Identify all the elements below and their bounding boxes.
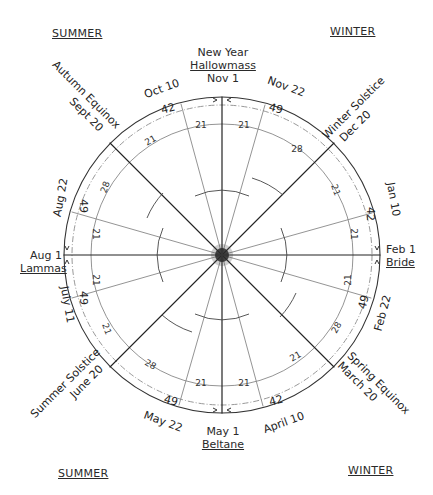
svg-text:49: 49	[77, 199, 90, 213]
festival-bottom-name: Beltane	[200, 438, 246, 451]
svg-text:21: 21	[91, 274, 101, 285]
svg-text:21: 21	[288, 349, 303, 363]
svg-text:42: 42	[364, 207, 377, 221]
svg-text:April 10: April 10	[262, 409, 307, 436]
svg-text:49: 49	[267, 101, 284, 117]
svg-text:21: 21	[329, 183, 342, 197]
svg-text:21: 21	[100, 322, 113, 336]
svg-text:28: 28	[99, 180, 112, 194]
svg-text:21: 21	[343, 274, 353, 285]
svg-text:28: 28	[329, 320, 344, 335]
festival-left-name: Lammas	[20, 262, 62, 275]
svg-text:28: 28	[143, 357, 158, 372]
svg-text:21: 21	[195, 378, 206, 388]
svg-text:July 11: July 11	[58, 284, 77, 324]
svg-text:Nov 22: Nov 22	[266, 74, 307, 100]
season-label-top-left: SUMMER	[52, 27, 102, 40]
svg-text:28: 28	[291, 144, 303, 154]
svg-text:49: 49	[77, 291, 90, 305]
festival-right: Feb 1 Bride	[386, 243, 416, 269]
festival-top-name: Hallowmass	[187, 59, 259, 72]
svg-text:May 22: May 22	[142, 409, 184, 435]
festival-left-date: Aug 1	[20, 249, 62, 262]
festival-right-name: Bride	[386, 256, 416, 269]
festival-top-line1: New Year	[187, 46, 259, 59]
festival-bottom: May 1 Beltane	[200, 425, 246, 451]
svg-text:21: 21	[143, 133, 158, 147]
svg-text:21: 21	[349, 228, 359, 239]
festival-left: Aug 1 Lammas	[20, 249, 62, 275]
svg-text:21: 21	[195, 120, 206, 130]
season-label-bottom-left: SUMMER	[58, 467, 108, 480]
svg-text:49: 49	[356, 294, 372, 311]
center-hub	[211, 244, 233, 266]
svg-text:Jan 10: Jan 10	[384, 180, 403, 217]
svg-text:Oct 10: Oct 10	[142, 76, 181, 101]
svg-text:21: 21	[91, 228, 101, 239]
festival-right-date: Feb 1	[386, 243, 416, 256]
svg-text:Feb 22: Feb 22	[372, 294, 394, 333]
festival-bottom-date: May 1	[200, 425, 246, 438]
festival-top: New Year Hallowmass Nov 1	[187, 46, 259, 85]
svg-text:21: 21	[238, 120, 249, 130]
festival-top-date: Nov 1	[187, 72, 259, 85]
season-label-top-right: WINTER	[330, 25, 375, 38]
svg-text:Aug 22: Aug 22	[51, 177, 71, 218]
svg-text:42: 42	[160, 101, 177, 117]
svg-text:42: 42	[268, 393, 285, 409]
season-label-bottom-right: WINTER	[348, 464, 393, 477]
svg-text:21: 21	[238, 378, 249, 388]
